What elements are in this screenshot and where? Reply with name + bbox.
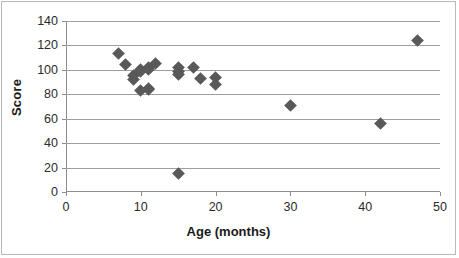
x-axis-title-text: Age (months) [187, 224, 271, 239]
gridline [66, 21, 440, 22]
x-tick-label: 10 [134, 200, 148, 214]
x-tick-mark [290, 192, 291, 196]
y-tick-mark [62, 143, 66, 144]
x-tick-label: 50 [433, 200, 447, 214]
x-tick-label: 40 [358, 200, 372, 214]
y-tick-label: 140 [37, 14, 58, 28]
y-tick-mark [62, 45, 66, 46]
x-tick-mark [440, 192, 441, 196]
y-axis-line [66, 21, 67, 192]
x-tick-mark [216, 192, 217, 196]
y-tick-label: 80 [44, 87, 58, 101]
y-tick-label: 40 [44, 136, 58, 150]
scatter-chart-figure: Score 020406080100120140 01020304050 Age… [1, 1, 456, 255]
y-axis-title-text: Score [10, 78, 25, 115]
y-tick-label: 120 [37, 38, 58, 52]
gridline [66, 70, 440, 71]
x-axis-line [66, 191, 440, 192]
plot-area: 020406080100120140 01020304050 [66, 21, 440, 192]
plot-background [66, 21, 440, 192]
x-tick-mark [365, 192, 366, 196]
gridline [66, 143, 440, 144]
gridline [66, 168, 440, 169]
y-tick-label: 60 [44, 112, 58, 126]
y-tick-label: 20 [44, 161, 58, 175]
x-tick-label: 30 [283, 200, 297, 214]
gridline [66, 45, 440, 46]
y-tick-label: 100 [37, 63, 58, 77]
x-tick-mark [141, 192, 142, 196]
x-tick-label: 20 [209, 200, 223, 214]
y-axis-title: Score [6, 2, 28, 192]
x-tick-label: 0 [63, 200, 70, 214]
x-axis-title: Age (months) [2, 224, 455, 239]
y-tick-mark [62, 94, 66, 95]
y-tick-label: 0 [51, 185, 58, 199]
x-tick-mark [66, 192, 67, 196]
y-tick-mark [62, 21, 66, 22]
gridline [66, 94, 440, 95]
y-tick-mark [62, 70, 66, 71]
y-tick-mark [62, 119, 66, 120]
y-tick-mark [62, 168, 66, 169]
